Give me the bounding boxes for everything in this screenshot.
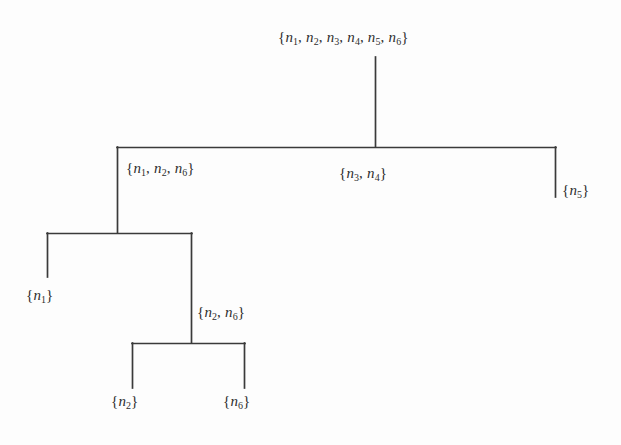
node-label-cluster-d: {n2, n6} [197, 305, 245, 320]
dendrogram-figure: {n1, n2, n3, n4, n5, n6} {n1, n2, n6} {n… [0, 0, 621, 445]
node-label-cluster-a: {n1, n2, n6} [126, 161, 195, 176]
node-label-leaf-n2: {n2} [111, 394, 139, 409]
node-label-cluster-b: {n3, n4} [339, 166, 387, 181]
node-label-root: {n1, n2, n3, n4, n5, n6} [278, 30, 409, 45]
tree-edges [0, 0, 621, 445]
node-label-leaf-n1: {n1} [26, 288, 54, 303]
node-label-cluster-c: {n5} [562, 183, 590, 198]
node-label-leaf-n6: {n6} [223, 394, 251, 409]
